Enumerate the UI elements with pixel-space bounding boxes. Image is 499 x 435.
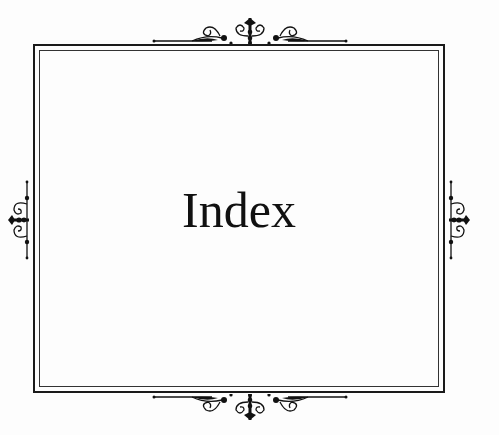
scroll-ornament-right-icon bbox=[448, 180, 472, 260]
scroll-ornament-top-icon bbox=[152, 14, 348, 44]
scroll-ornament-left-icon bbox=[6, 180, 30, 260]
scroll-ornament-bottom-icon bbox=[152, 394, 348, 424]
page-title: Index bbox=[39, 50, 439, 370]
